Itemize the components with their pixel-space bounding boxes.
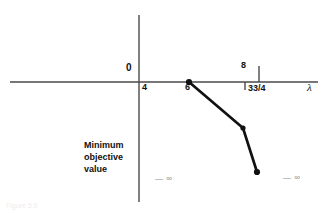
objective-value-curve (189, 82, 257, 172)
y-axis-label: Minimum objective value (84, 139, 124, 175)
x-tick-label-33-over-4: 33/4 (248, 84, 266, 94)
negative-infinity-annotation-left: — ∞ (155, 175, 172, 184)
x-tick-label-0: 0 (126, 62, 132, 73)
y-axis-label-line-1: Minimum (84, 139, 124, 151)
figure-container: 0 4 6 8 33/4 λ Minimum objective value —… (0, 0, 325, 213)
x-tick-label-8: 8 (241, 61, 246, 71)
y-axis-label-line-3: value (84, 163, 124, 175)
negative-infinity-annotation-right: — ∞ (283, 174, 300, 183)
x-tick-label-4: 4 (142, 83, 147, 93)
figure-caption: Figure 5.9 (6, 202, 38, 210)
x-tick-label-6: 6 (185, 83, 190, 93)
y-axis-label-line-2: objective (84, 151, 124, 163)
data-point-marker (254, 169, 260, 175)
data-point-marker (240, 125, 245, 130)
x-axis-label-lambda: λ (307, 81, 312, 93)
